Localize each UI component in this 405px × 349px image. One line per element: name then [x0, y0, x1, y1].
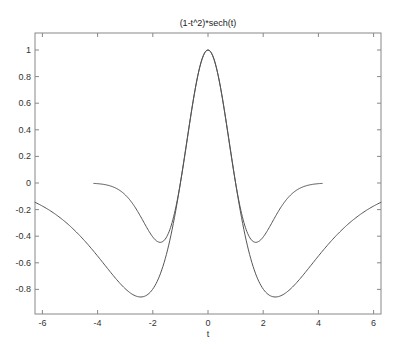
data-curves: [35, 50, 382, 297]
y-tick-label: -0.2: [15, 205, 31, 215]
y-tick-label: -0.6: [15, 258, 31, 268]
x-tick-label: -4: [94, 318, 102, 328]
x-tick-label: 0: [205, 318, 210, 328]
y-tick-label: 0.8: [18, 72, 31, 82]
x-tick-label: -2: [149, 318, 157, 328]
x-tick-label: -6: [38, 318, 46, 328]
chart-title: (1-t^2)*sech(t): [180, 18, 237, 28]
series-line-2: [93, 50, 322, 242]
x-tick-label: 6: [371, 318, 376, 328]
y-tick-label: 0.2: [18, 151, 31, 161]
y-tick-label: -0.4: [15, 231, 31, 241]
series-line-1: [35, 50, 382, 297]
y-tick-label: 1: [26, 45, 31, 55]
x-tick-label: 2: [261, 318, 266, 328]
y-tick-label: 0: [26, 178, 31, 188]
y-tick-label: -0.8: [15, 284, 31, 294]
x-axis-label: t: [207, 329, 210, 339]
chart: (1-t^2)*sech(t) -6-4-2024610.80.60.40.20…: [0, 0, 405, 349]
axis-ticks: -6-4-2024610.80.60.40.20-0.2-0.4-0.6-0.8: [15, 33, 381, 328]
y-tick-label: 0.4: [18, 125, 31, 135]
x-tick-label: 4: [316, 318, 321, 328]
plot-area: [35, 33, 381, 314]
y-tick-label: 0.6: [18, 98, 31, 108]
